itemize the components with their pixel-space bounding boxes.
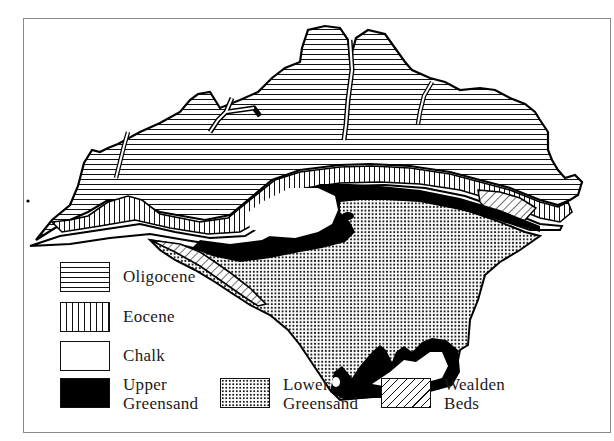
lower-greensand-swatch — [220, 378, 270, 408]
legend-label: Lower Greensand — [283, 375, 358, 413]
legend-label: Oligocene — [123, 267, 196, 286]
legend-chalk: Chalk — [60, 341, 165, 371]
eocene-swatch — [60, 302, 110, 332]
wealden-beds-swatch — [381, 378, 431, 408]
legend-wealden-beds: Wealden Beds — [381, 378, 505, 413]
legend-lower-greensand: Lower Greensand — [220, 378, 358, 413]
chalk-swatch — [60, 341, 110, 371]
legend-eocene: Eocene — [60, 302, 175, 332]
legend-label: Upper Greensand — [123, 375, 198, 413]
upper-greensand-swatch — [60, 378, 110, 408]
legend-oligocene: Oligocene — [60, 262, 196, 292]
needles-dot — [26, 199, 29, 202]
legend-label: Chalk — [123, 346, 165, 365]
legend-label: Eocene — [123, 307, 175, 326]
legend-label: Wealden Beds — [444, 375, 505, 413]
legend-upper-greensand: Upper Greensand — [60, 378, 198, 413]
upper-greensand-spot — [342, 212, 354, 220]
oligocene-swatch — [60, 262, 110, 292]
